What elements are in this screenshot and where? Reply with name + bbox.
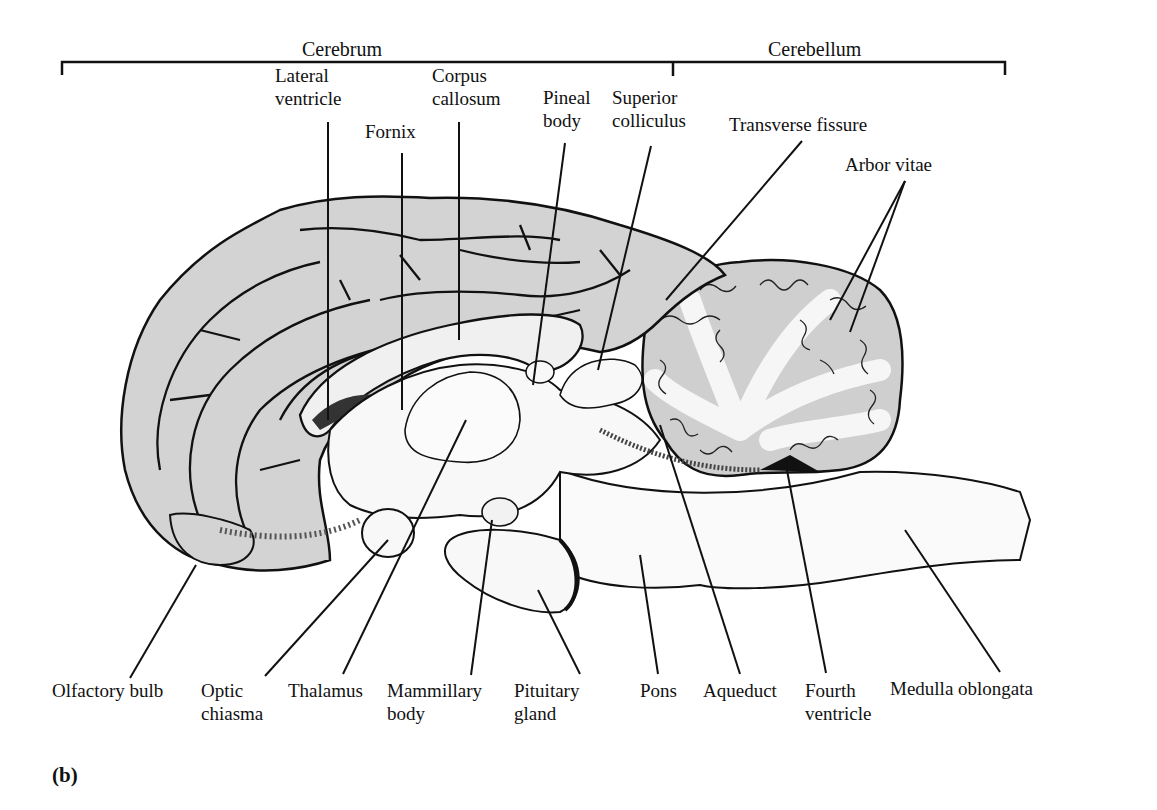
pineal-body-shape [526,361,554,383]
label-arbor-vitae: Arbor vitae [845,153,932,176]
superior-colliculus-shape [560,359,642,408]
optic-chiasma-shape [362,509,414,557]
label-fornix: Fornix [365,120,416,143]
label-aqueduct: Aqueduct [703,679,777,702]
label-optic-chiasma: Optic chiasma [201,679,263,725]
cerebellum-label: Cerebellum [768,38,861,60]
label-superior-colliculus: Superior colliculus [612,86,686,132]
panel-label: (b) [52,763,78,788]
label-medulla-oblongata: Medulla oblongata [890,677,1033,700]
medulla-oblongata-shape [560,470,1030,588]
label-pons: Pons [640,679,677,702]
label-pituitary-gland: Pituitary gland [514,679,579,725]
label-mammillary-body: Mammillary body [387,679,482,725]
label-corpus-callosum: Corpus callosum [432,64,501,110]
label-lateral-ventricle: Lateral ventricle [275,64,341,110]
label-thalamus: Thalamus [288,679,363,702]
cerebrum-bracket [62,62,1005,76]
cerebrum-label: Cerebrum [302,38,382,60]
label-olfactory-bulb: Olfactory bulb [52,679,163,702]
label-fourth-ventricle: Fourth ventricle [805,679,871,725]
brain-sagittal-diagram: Cerebrum Cerebellum Lateral ventricle Fo… [0,0,1157,810]
label-pineal-body: Pineal body [543,86,591,132]
pituitary-gland-shape [445,530,579,613]
mammillary-body-shape [482,498,518,526]
label-transverse-fissure: Transverse fissure [729,113,867,136]
